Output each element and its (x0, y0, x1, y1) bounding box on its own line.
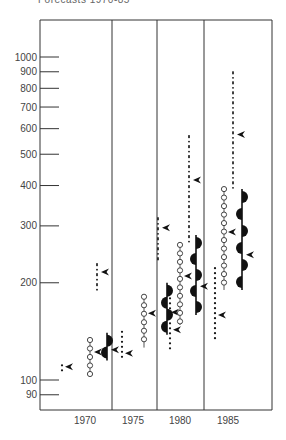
dot (121, 341, 123, 343)
dot (157, 243, 159, 245)
open-circle (177, 319, 182, 324)
x-tick-label: 1985 (217, 415, 240, 426)
series-dashed-1975 (157, 217, 170, 260)
dash (157, 237, 159, 240)
dot (232, 87, 234, 89)
dash (188, 185, 190, 188)
dot (188, 181, 190, 183)
half-disc-icon (242, 191, 248, 203)
dot (232, 187, 234, 189)
x-tick-label: 1970 (74, 415, 97, 426)
dash (232, 151, 234, 154)
half-disc-icon (161, 297, 167, 309)
y-tick-label: 500 (20, 149, 37, 160)
dot (169, 322, 171, 324)
median-arrow-icon (101, 268, 109, 275)
open-circle (177, 259, 182, 264)
open-circle (221, 263, 226, 268)
series-circles-1985 (221, 186, 236, 289)
dot (214, 337, 216, 339)
open-circle (221, 271, 226, 276)
open-circle (221, 195, 226, 200)
median-arrow-icon (65, 363, 73, 370)
dot (157, 253, 159, 255)
dot (214, 312, 216, 314)
open-circle (177, 293, 182, 298)
dot (232, 97, 234, 99)
dot (121, 351, 123, 353)
half-disc-icon (196, 269, 202, 281)
dash (188, 155, 190, 158)
dot (232, 157, 234, 159)
open-circle (221, 212, 226, 217)
dot (188, 151, 190, 153)
dot (232, 117, 234, 119)
series-half-discs-1980 (190, 235, 208, 315)
half-disc-icon (101, 346, 107, 358)
open-circle (87, 363, 92, 368)
median-arrow-icon (237, 131, 245, 138)
dot (169, 342, 171, 344)
half-disc-icon (196, 301, 202, 313)
open-circle (87, 346, 92, 351)
dash (232, 91, 234, 94)
dash (96, 273, 98, 276)
open-circle (221, 203, 226, 208)
dot (232, 77, 234, 79)
median-arrow-icon (148, 310, 156, 317)
open-circle (221, 229, 226, 234)
open-circle (177, 276, 182, 281)
dot (214, 297, 216, 299)
dot (188, 141, 190, 143)
half-disc-icon (190, 253, 196, 265)
dot (188, 241, 190, 243)
series-circles-1975 (141, 294, 156, 347)
y-tick-label: 300 (20, 220, 37, 231)
y-tick-label: 200 (20, 277, 37, 288)
dot (188, 171, 190, 173)
dot (96, 279, 98, 281)
dot (169, 312, 171, 314)
dot (96, 269, 98, 271)
series-circles-1980 (177, 242, 192, 325)
open-circle (141, 328, 146, 333)
open-circle (177, 242, 182, 247)
dash (96, 263, 98, 266)
open-circle (177, 285, 182, 290)
dash (232, 171, 234, 174)
dash (188, 235, 190, 238)
dot (188, 221, 190, 223)
series-dashed-1980 (188, 135, 201, 242)
y-tick-label: 100 (20, 375, 37, 386)
dot (232, 147, 234, 149)
dot (61, 369, 63, 371)
open-circle (221, 280, 226, 285)
dot (169, 337, 171, 339)
dot (232, 177, 234, 179)
dot (169, 347, 171, 349)
series-half-discs-1985 (236, 189, 254, 290)
dash (157, 227, 159, 230)
y-tick-label: 800 (20, 83, 37, 94)
dot (214, 272, 216, 274)
open-circle (221, 220, 226, 225)
dash (188, 135, 190, 138)
open-circle (87, 337, 92, 342)
median-arrow-icon (246, 251, 254, 258)
dot (232, 127, 234, 129)
dash (188, 205, 190, 208)
dash (232, 121, 234, 124)
dot (169, 332, 171, 334)
dash (188, 215, 190, 218)
dash (157, 217, 159, 220)
open-circle (141, 337, 146, 342)
median-arrow-icon (94, 349, 102, 356)
half-disc-icon (236, 208, 242, 220)
y-tick-label: 90 (26, 389, 38, 400)
open-circle (87, 371, 92, 376)
open-circle (221, 254, 226, 259)
half-disc-icon (167, 285, 173, 297)
dot (214, 307, 216, 309)
open-circle (221, 186, 226, 191)
median-arrow-icon (173, 326, 181, 333)
